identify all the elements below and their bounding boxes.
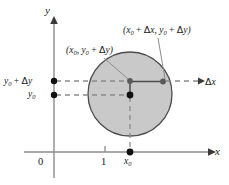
delta-x-arrowhead	[198, 78, 205, 85]
label-point-left: (x0, y0 + Δy)	[66, 45, 113, 56]
point-corner	[160, 79, 166, 85]
label-y-lower: y0	[28, 90, 35, 100]
point-y-axis-upper	[51, 78, 57, 84]
label-axis-x: x	[215, 146, 220, 157]
point-y-axis-lower	[51, 92, 57, 98]
point-x-axis-x0	[127, 149, 134, 156]
label-origin: 0	[38, 157, 43, 168]
label-x-tick-1: 1	[101, 157, 106, 168]
y-axis-arrowhead	[50, 16, 58, 24]
label-point-top-right: (x0 + Δx, y0 + Δy)	[123, 25, 191, 36]
label-y-upper: y0 + Δy	[4, 76, 32, 87]
label-x-sub-zero: x0	[124, 157, 131, 167]
point-center	[127, 92, 134, 99]
figure-canvas: (x0 + Δx, y0 + Δy) (x0, y0 + Δy) y0 + Δy…	[0, 0, 229, 185]
point-vertical-increment	[127, 78, 133, 84]
label-delta-x-arrow: Δx	[205, 77, 216, 88]
label-axis-y: y	[45, 5, 50, 16]
